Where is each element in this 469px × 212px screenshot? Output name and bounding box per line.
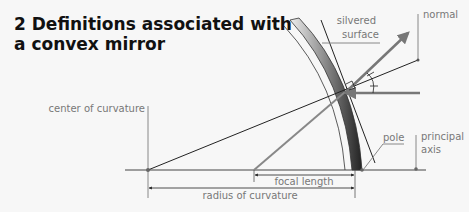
reflected-ray [346, 33, 408, 92]
angle-arc [367, 73, 374, 93]
axis-label: axis [421, 144, 441, 155]
convex-mirror-diagram: silvered surface normal center of curvat… [0, 0, 469, 212]
silvered-label: silvered [337, 15, 376, 26]
center-of-curvature-point [146, 168, 150, 172]
radius-of-curvature-label: radius of curvature [202, 190, 297, 201]
surface-label: surface [342, 29, 379, 40]
pole-label: pole [383, 132, 404, 143]
normal-line [148, 60, 418, 170]
normal-endpoint [417, 59, 420, 62]
focal-ray [254, 92, 345, 170]
center-of-curvature-label: center of curvature [49, 103, 145, 114]
axis-point [414, 167, 418, 171]
normal-label: normal [423, 9, 458, 20]
principal-label: principal [421, 131, 464, 142]
focal-length-label: focal length [274, 176, 333, 187]
pole-point [360, 168, 364, 172]
